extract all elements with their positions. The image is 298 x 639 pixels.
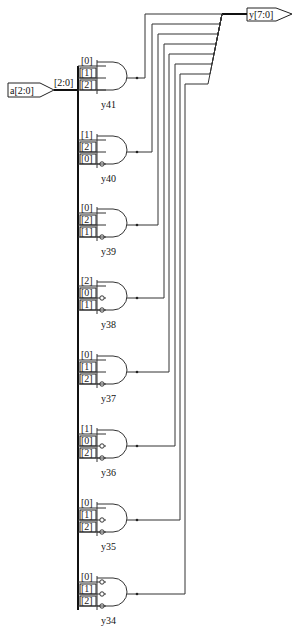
gate-name: y35 [101, 541, 116, 552]
input-bus-label: [2:0] [54, 77, 73, 88]
gate-pin: [0] [78, 497, 106, 508]
pin-label: [0] [81, 497, 93, 508]
gate-pin: [0] [78, 349, 106, 360]
input-port-label: a[2:0] [10, 85, 34, 96]
inverter-bubble-icon [100, 592, 104, 596]
gate-pin: [1] [78, 67, 106, 78]
gate-pin: [1] [78, 129, 106, 140]
gate-pin: [0] [78, 202, 106, 213]
input-port-a[interactable]: a[2:0] [8, 83, 54, 97]
pin-label: [2] [81, 214, 93, 225]
pin-label: [2] [81, 79, 93, 90]
output-port-label: y[7:0] [249, 9, 273, 20]
pin-label: [2] [81, 595, 93, 606]
and-gate-y39[interactable]: [0][2][1]y39 [78, 202, 127, 257]
inverter-bubble-icon [100, 580, 104, 584]
output-port-y[interactable]: y[7:0] [247, 8, 292, 21]
gate-pin: [2] [78, 275, 106, 286]
pin-label: [0] [81, 349, 93, 360]
pin-label: [1] [81, 299, 93, 310]
pin-label: [0] [81, 153, 93, 164]
pin-label: [1] [81, 509, 93, 520]
and-gate-y34[interactable]: [0][1][2]y34 [78, 571, 127, 626]
gate-name: y36 [101, 467, 116, 478]
gates-layer: [0][1][2]y41[1][2][0]y40[0][2][1]y39[2][… [78, 55, 127, 626]
junction-dot [136, 224, 139, 227]
pin-label: [2] [81, 521, 93, 532]
decoder-schematic: a[2:0] [2:0] y[7:0] [0][1][2]y41[1][2][0… [0, 0, 298, 639]
gate-name: y37 [101, 393, 116, 404]
and-gate-y37[interactable]: [0][1][2]y37 [78, 349, 127, 404]
gate-name: y40 [101, 173, 116, 184]
pin-label: [1] [81, 129, 93, 140]
and-gate-y40[interactable]: [1][2][0]y40 [78, 129, 127, 184]
junction-dot [136, 519, 139, 522]
pin-label: [0] [81, 571, 93, 582]
pin-label: [2] [81, 141, 93, 152]
gate-name: y38 [101, 319, 116, 330]
gate-pin: [1] [78, 423, 106, 434]
inverter-bubble-icon [100, 518, 104, 522]
gate-name: y34 [101, 615, 116, 626]
pin-label: [0] [81, 435, 93, 446]
gate-name: y39 [101, 246, 116, 257]
gate-pin: [2] [78, 79, 106, 90]
pin-label: [1] [81, 361, 93, 372]
gate-pin: [0] [78, 55, 106, 66]
gate-pin: [2] [78, 214, 106, 225]
and-gate-y36[interactable]: [1][0][2]y36 [78, 423, 127, 478]
junction-dot [136, 77, 139, 80]
gate-pin: [1] [78, 361, 106, 372]
pin-label: [1] [81, 67, 93, 78]
pin-label: [2] [81, 373, 93, 384]
and-gate-y41[interactable]: [0][1][2]y41 [78, 55, 127, 110]
pin-label: [0] [81, 287, 93, 298]
gate-pin: [2] [78, 141, 106, 152]
inverter-bubble-icon [100, 444, 104, 448]
pin-label: [2] [81, 275, 93, 286]
inverter-bubble-icon [100, 296, 104, 300]
junction-dot [136, 371, 139, 374]
and-gate-y38[interactable]: [2][0][1]y38 [78, 275, 127, 330]
junction-dot [136, 593, 139, 596]
pin-label: [1] [81, 423, 93, 434]
pin-label: [1] [81, 226, 93, 237]
junction-dot [136, 445, 139, 448]
pin-label: [1] [81, 583, 93, 594]
pin-label: [2] [81, 447, 93, 458]
and-gate-y35[interactable]: [0][1][2]y35 [78, 497, 127, 552]
junction-dot [136, 151, 139, 154]
junction-dot [136, 297, 139, 300]
gate-name: y41 [101, 99, 116, 110]
pin-label: [0] [81, 202, 93, 213]
pin-label: [0] [81, 55, 93, 66]
output-wires-layer [127, 14, 222, 595]
